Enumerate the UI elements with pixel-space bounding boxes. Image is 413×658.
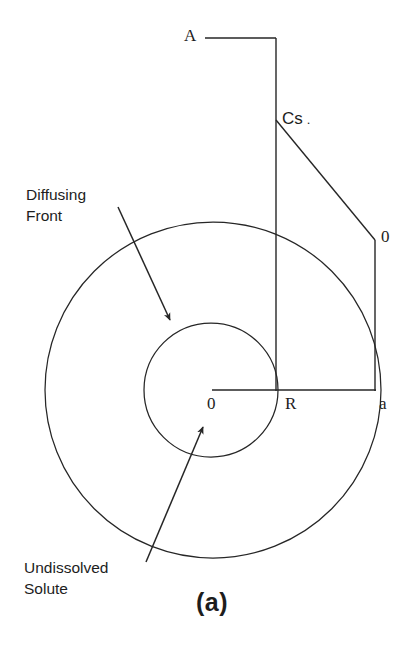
figure-caption: (a)	[196, 590, 228, 615]
undissolved-solute-leader-arrow	[146, 427, 203, 562]
undissolved-solute-line1: Undissolved	[24, 559, 108, 576]
cs-text: Cs	[282, 109, 303, 128]
profile-decay-line	[276, 120, 375, 240]
undissolved-solute-line2: Solute	[24, 580, 68, 597]
diffusing-front-line2: Front	[26, 207, 62, 224]
label-saturation-concentration: Cs.	[282, 110, 310, 127]
label-core-radius-R: R	[285, 395, 296, 412]
annotation-undissolved-solute: UndissolvedSolute	[24, 557, 108, 599]
label-outer-radius-a: a	[379, 395, 387, 412]
diffusing-front-leader-arrow	[118, 207, 170, 320]
annotation-diffusing-front: DiffusingFront	[26, 184, 86, 226]
diffusing-front-line1: Diffusing	[26, 186, 86, 203]
cs-mark: .	[303, 112, 311, 127]
label-profile-zero: 0	[381, 228, 390, 245]
figure-diffusion-sphere: A Cs. 0 0 R a DiffusingFront Undissolved…	[0, 0, 413, 658]
label-center-zero: 0	[207, 395, 216, 412]
label-profile-top-A: A	[184, 27, 196, 44]
